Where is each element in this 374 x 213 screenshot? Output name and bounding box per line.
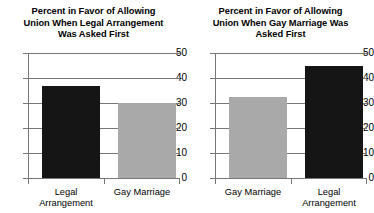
plot-wrapper: 50 40 30 20 10 0 <box>187 47 374 213</box>
gridline-40 <box>28 78 180 79</box>
x-tick-mark-right <box>366 179 367 184</box>
x-axis-label-line-1: Legal <box>28 187 104 198</box>
plot-area <box>28 53 180 178</box>
plot-area <box>215 53 367 178</box>
x-axis-label-line-2: Arrangement <box>28 198 104 209</box>
x-tick-mark-left <box>28 179 29 184</box>
x-axis-label-line-1: Gay Marriage <box>104 187 180 198</box>
chart-title-line-2: Union When Legal Arrangement <box>6 18 181 30</box>
chart-title-line-1: Percent in Favor of Allowing <box>193 6 368 18</box>
bar-legal-arrangement <box>42 86 100 179</box>
gridline-50 <box>215 53 367 54</box>
chart-title-line-3: Asked First <box>193 29 368 41</box>
chart-title-line-1: Percent in Favor of Allowing <box>6 6 181 18</box>
chart-title: Percent in Favor of Allowing Union When … <box>187 0 374 44</box>
plot-wrapper: 50 40 30 20 10 0 <box>0 47 187 213</box>
gridline-50 <box>28 53 180 54</box>
x-axis-label-legal-arrangement: Legal Arrangement <box>28 187 104 210</box>
chart-panel-legal-arrangement-first: Percent in Favor of Allowing Union When … <box>0 0 187 213</box>
x-axis-label-line-2: Arrangement <box>291 198 367 209</box>
x-tick-mark-middle <box>291 179 292 184</box>
x-axis-label-line-1: Legal <box>291 187 367 198</box>
x-axis-label-gay-marriage: Gay Marriage <box>215 187 291 198</box>
x-tick-mark-right <box>179 179 180 184</box>
x-axis-label-legal-arrangement: Legal Arrangement <box>291 187 367 210</box>
chart-panel-gay-marriage-first: Percent in Favor of Allowing Union When … <box>187 0 374 213</box>
x-tick-mark-left <box>215 179 216 184</box>
two-panel-bar-chart-figure: Percent in Favor of Allowing Union When … <box>0 0 374 213</box>
chart-title-line-3: Was Asked First <box>6 29 181 41</box>
bar-gay-marriage <box>118 103 176 178</box>
x-tick-mark-middle <box>104 179 105 184</box>
chart-title: Percent in Favor of Allowing Union When … <box>0 0 187 44</box>
bar-legal-arrangement <box>305 66 363 179</box>
chart-title-line-2: Union When Gay Marriage Was <box>193 18 368 30</box>
x-axis-label-gay-marriage: Gay Marriage <box>104 187 180 198</box>
x-axis-label-line-1: Gay Marriage <box>215 187 291 198</box>
bar-gay-marriage <box>229 97 287 178</box>
